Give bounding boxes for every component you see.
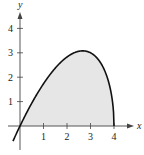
y-axis-arrow-icon xyxy=(18,12,23,19)
x-axis-label: x xyxy=(136,120,142,131)
y-tick-label: 2 xyxy=(8,72,13,83)
y-tick-label: 3 xyxy=(8,47,13,58)
y-tick-label: 1 xyxy=(8,96,13,107)
x-axis-arrow-icon xyxy=(127,124,134,129)
y-axis-label: y xyxy=(17,0,23,10)
chart: 12341234 x y xyxy=(0,0,144,155)
x-tick-label: 1 xyxy=(41,131,46,142)
x-tick-label: 3 xyxy=(88,131,93,142)
x-tick-label: 4 xyxy=(112,131,117,142)
y-tick-label: 4 xyxy=(8,23,13,34)
x-tick-label: 2 xyxy=(65,131,70,142)
